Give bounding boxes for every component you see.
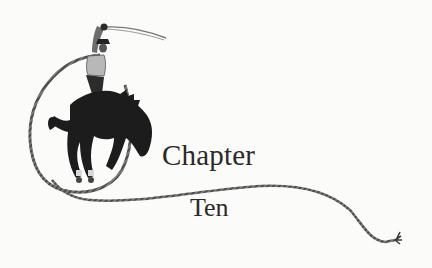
- rodeo-illustration: [0, 0, 432, 268]
- chapter-title-page: Chapter Ten: [0, 0, 432, 268]
- bucking-horse-icon: [48, 90, 152, 183]
- chapter-label: Chapter: [162, 141, 255, 170]
- chapter-number: Ten: [190, 195, 229, 221]
- whip-icon: [106, 27, 166, 40]
